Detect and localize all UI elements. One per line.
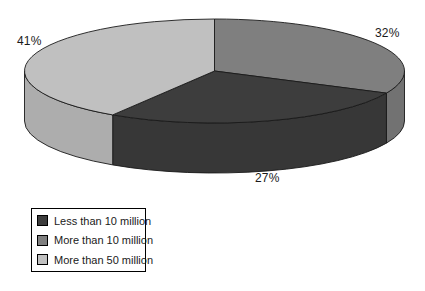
legend-item: More than 10 million: [37, 231, 145, 251]
legend-swatch-more-than-10-million: [37, 235, 48, 246]
legend-swatch-more-than-50-million: [37, 254, 48, 265]
legend-label: More than 50 million: [54, 254, 153, 266]
legend-label: More than 10 million: [54, 234, 153, 246]
pie-chart-figure: 41% 32% 27% Less than 10 million More th…: [0, 0, 425, 291]
legend-label: Less than 10 million: [54, 215, 151, 227]
legend: Less than 10 million More than 10 millio…: [31, 208, 146, 272]
slice-label-less-than-10-million: 27%: [255, 171, 280, 185]
legend-item: More than 50 million: [37, 250, 145, 270]
slice-label-more-than-50-million: 41%: [17, 34, 42, 48]
slice-label-more-than-10-million: 32%: [375, 26, 400, 40]
legend-swatch-less-than-10-million: [37, 215, 48, 226]
legend-item: Less than 10 million: [37, 211, 145, 231]
